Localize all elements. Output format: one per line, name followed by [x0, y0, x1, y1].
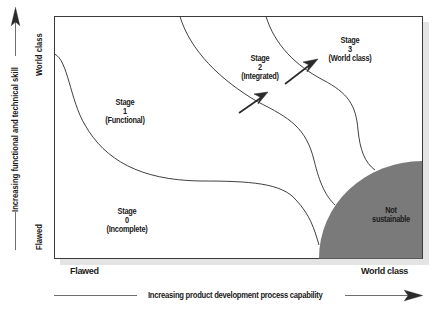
y-axis-max-label: World class	[34, 33, 44, 76]
x-axis-max-label: World class	[361, 266, 408, 276]
x-axis-title: Increasing product development process c…	[148, 290, 323, 300]
stage-0-name: (Incomplete)	[90, 225, 164, 234]
stage-3-label: Stage 3 (World class)	[313, 36, 387, 63]
not-sustainable-label: Not sustainable	[366, 206, 415, 224]
stage-0-label: Stage 0 (Incomplete)	[90, 207, 164, 234]
stage-1-label: Stage 1 (Functional)	[88, 98, 162, 125]
not-sustainable-line2: sustainable	[366, 215, 415, 224]
y-axis-min-label: Flawed	[34, 224, 44, 250]
x-axis-min-label: Flawed	[70, 266, 99, 276]
stage-1-name: (Functional)	[88, 116, 162, 125]
y-axis-title: Increasing functional and technical skil…	[10, 67, 20, 212]
stage-3-name: (World class)	[313, 54, 387, 63]
stage-2-label: Stage 2 (Integrated)	[223, 54, 297, 81]
stage-2-name: (Integrated)	[223, 72, 297, 81]
